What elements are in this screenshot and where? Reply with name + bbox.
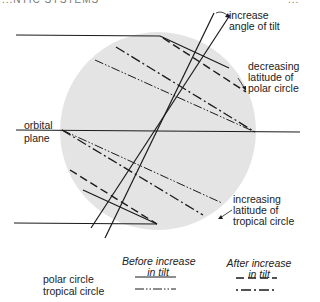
legend-row-polar: polar circle [43,274,94,285]
legend-header-line: in tilt [122,267,194,278]
label-line: angle of tilt [229,21,280,32]
label-orbital-plane: orbital plane [24,120,53,144]
label-line: orbital [24,120,53,131]
label-increase-tilt: increase angle of tilt [229,10,280,32]
label-line: polar circle [248,83,299,94]
label-decreasing-polar: decreasing latitude of polar circle [248,61,299,94]
label-increasing-tropical: increasing latitude of tropical circle [233,194,294,227]
legend-header-line: in tilt [224,269,294,280]
legend-header-before: Before increase in tilt [122,256,194,278]
legend-row-tropical: tropical circle [43,286,104,297]
label-line: plane [24,133,53,144]
increase-tilt-arrow [216,12,228,16]
label-line: tropical circle [233,216,294,227]
legend-header-after: After increase in tilt [224,258,294,280]
